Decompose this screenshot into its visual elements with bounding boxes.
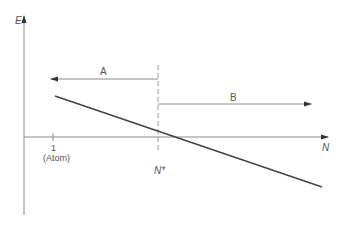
region-a-label: A	[100, 66, 107, 77]
region-b-label: B	[230, 92, 237, 103]
energy-line	[55, 96, 322, 187]
y-axis-label: E	[15, 15, 22, 26]
x-axis-label: N	[322, 142, 330, 153]
tick-note: (Atom)	[43, 153, 70, 163]
tick-label: 1	[51, 143, 56, 153]
energy-diagram: E N 1 (Atom) N* A B	[0, 0, 347, 226]
critical-point-label: N*	[154, 165, 166, 176]
